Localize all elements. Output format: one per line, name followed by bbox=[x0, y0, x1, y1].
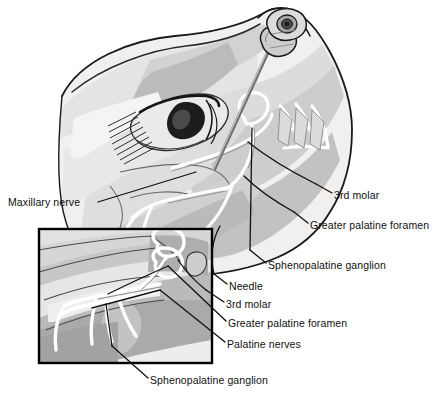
label-sphenopalatine-ganglion-main: Sphenopalatine ganglion bbox=[268, 259, 386, 271]
label-greater-palatine-foramen-main: Greater palatine foramen bbox=[310, 219, 429, 231]
label-needle: Needle bbox=[229, 280, 263, 292]
label-sphenopalatine-ganglion-bottom: Sphenopalatine ganglion bbox=[150, 374, 268, 386]
label-palatine-nerves: Palatine nerves bbox=[227, 338, 301, 350]
label-3rd-molar-main: 3rd molar bbox=[334, 189, 379, 201]
label-maxillary-nerve: Maxillary nerve bbox=[8, 196, 80, 208]
label-greater-palatine-foramen-inset: Greater palatine foramen bbox=[228, 317, 347, 329]
inset-detail-box bbox=[39, 228, 212, 363]
label-3rd-molar-inset: 3rd molar bbox=[226, 298, 271, 310]
anatomical-figure: Maxillary nerve 3rd molar Greater palati… bbox=[0, 0, 434, 397]
